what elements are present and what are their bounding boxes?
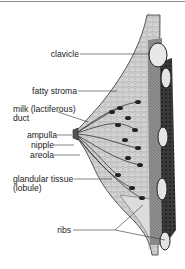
label-clavicle: clavicle bbox=[51, 50, 79, 59]
label-areola: areola bbox=[30, 151, 54, 160]
rib-3 bbox=[157, 178, 167, 200]
label-glandular-tissue-line2: (lobule) bbox=[13, 184, 42, 193]
rib-clavicle bbox=[149, 43, 167, 67]
rib-4 bbox=[160, 232, 170, 250]
label-ampulla: ampulla bbox=[27, 131, 57, 140]
rib-1 bbox=[161, 68, 171, 88]
nipple bbox=[73, 128, 78, 140]
label-nipple: nipple bbox=[31, 141, 54, 150]
label-fatty-stroma: fatty stroma bbox=[32, 87, 77, 96]
breast-anatomy-diagram: clavicle fatty stroma milk (lactiferous)… bbox=[0, 0, 185, 269]
rib-2 bbox=[158, 127, 168, 147]
label-milk-duct-line2: duct bbox=[13, 114, 29, 123]
label-ribs: ribs bbox=[57, 226, 71, 235]
